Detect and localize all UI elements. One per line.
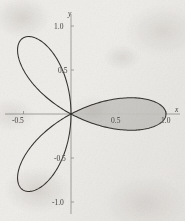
x-tick-label-1.0: 1.0 [161, 117, 170, 125]
x-tick-label-0.5: 0.5 [111, 117, 120, 125]
shaded-petal-region [71, 98, 166, 130]
plot-canvas [0, 0, 185, 221]
polar-rose-figure: -0.5 0.5 1.0 1.0 0.5 -0.5 -1.0 x y [0, 0, 185, 221]
y-tick-label--0.5: -0.5 [54, 155, 66, 163]
x-axis-label: x [175, 106, 178, 114]
x-tick-label--0.5: -0.5 [12, 117, 24, 125]
y-tick-label--1.0: -1.0 [52, 199, 64, 207]
y-axis-label: y [68, 10, 71, 18]
y-tick-label-1.0: 1.0 [54, 23, 63, 31]
y-tick-label-0.5: 0.5 [58, 67, 67, 75]
